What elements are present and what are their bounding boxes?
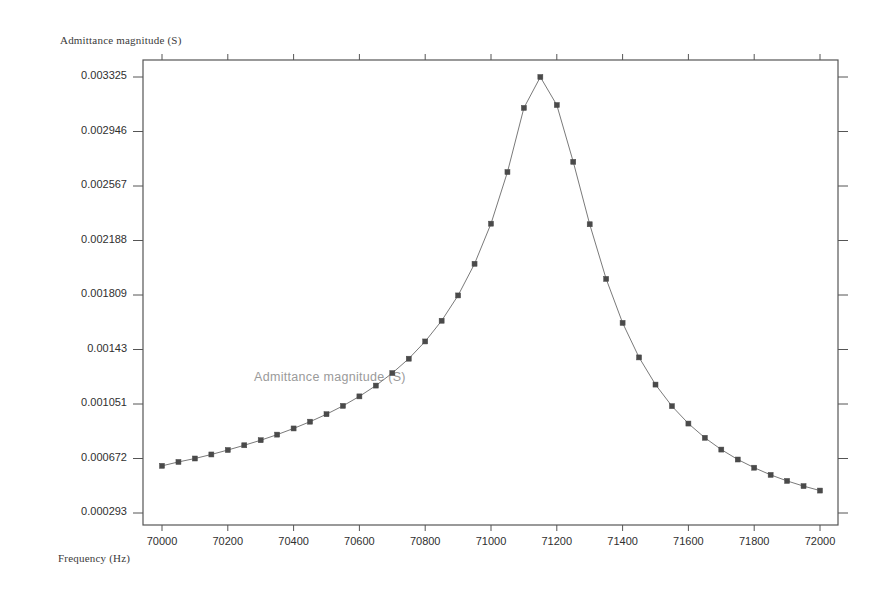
y-tick-label: 0.00143 [17, 342, 127, 354]
plot-frame [143, 60, 838, 525]
y-tick-label: 0.002188 [17, 233, 127, 245]
x-tick-label: 72000 [780, 535, 860, 547]
chart-figure: Admittance magnitude (S) Frequency (Hz) … [0, 0, 887, 600]
y-tick-label: 0.000293 [17, 505, 127, 517]
y-tick-label: 0.003325 [17, 69, 127, 81]
data-markers [160, 75, 823, 494]
y-tick-label: 0.000672 [17, 451, 127, 463]
y-tick-label: 0.002567 [17, 178, 127, 190]
plot-area [0, 0, 887, 600]
y-tick-label: 0.001809 [17, 287, 127, 299]
y-tick-label: 0.002946 [17, 124, 127, 136]
y-tick-label: 0.001051 [17, 396, 127, 408]
data-line [162, 77, 820, 491]
